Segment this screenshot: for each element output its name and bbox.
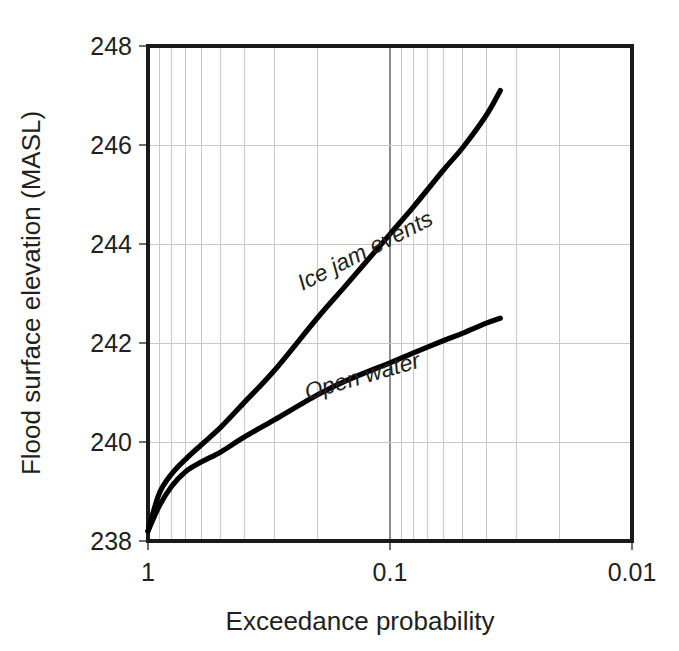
y-tick-label-246: 246 bbox=[90, 131, 132, 159]
y-tick-label-248: 248 bbox=[90, 32, 132, 60]
x-tick-label-0.01: 0.01 bbox=[608, 558, 657, 586]
y-tick-label-240: 240 bbox=[90, 428, 132, 456]
chart-svg: 238240242244246248 10.10.01 Flood surfac… bbox=[0, 0, 679, 651]
x-tick-label-0.1: 0.1 bbox=[373, 558, 408, 586]
y-tick-label-238: 238 bbox=[90, 527, 132, 555]
y-tick-label-242: 242 bbox=[90, 329, 132, 357]
x-axis-title: Exceedance probability bbox=[226, 606, 495, 636]
flood-frequency-chart: 238240242244246248 10.10.01 Flood surfac… bbox=[0, 0, 679, 651]
y-tick-label-244: 244 bbox=[90, 230, 132, 258]
y-axis-title: Flood surface elevation (MASL) bbox=[16, 111, 46, 475]
x-tick-label-1: 1 bbox=[141, 558, 155, 586]
